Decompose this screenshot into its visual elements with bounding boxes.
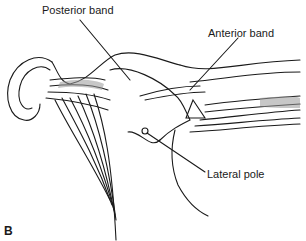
disc-body xyxy=(110,69,190,140)
leader-lateral xyxy=(147,133,205,172)
leader-posterior xyxy=(80,20,130,80)
anterior-band-label: Anterior band xyxy=(208,27,274,39)
posterior-band-label: Posterior band xyxy=(42,4,114,16)
lateral-pole-label: Lateral pole xyxy=(207,168,265,180)
disc-triangle xyxy=(186,100,205,118)
inner-loop xyxy=(19,67,50,109)
leader-anterior xyxy=(190,38,238,90)
panel-label: B xyxy=(4,224,13,238)
anatomy-figure: Posterior band Anterior band Lateral pol… xyxy=(0,0,306,241)
